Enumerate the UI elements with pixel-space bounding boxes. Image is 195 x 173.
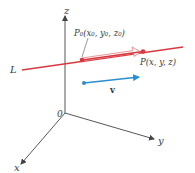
vector-v-label: v (109, 85, 116, 95)
vector-v (84, 77, 139, 83)
line-l-label: L (9, 64, 17, 75)
vector-v-tail (82, 81, 86, 85)
p0-leader-line (82, 38, 88, 57)
x-axis-label: x (14, 162, 20, 173)
y-axis (65, 113, 154, 139)
point-p (141, 49, 146, 54)
p0-label: P₀(x₀, y₀, z₀) (73, 28, 125, 38)
line-in-space-diagram: z y x 0 L P₀(x₀, y₀, z₀) P(x, y, z) v (0, 0, 195, 173)
origin-label: 0 (57, 109, 63, 119)
z-axis-label: z (63, 5, 70, 16)
p-label: P(x, y, z) (139, 57, 176, 67)
x-axis (21, 113, 65, 164)
point-p0 (80, 58, 85, 63)
y-axis-label: y (157, 135, 164, 146)
